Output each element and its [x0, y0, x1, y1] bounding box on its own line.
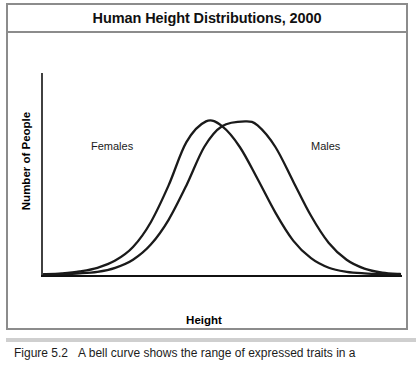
figure-frame: Human Height Distributions, 2000 Number … — [6, 3, 408, 330]
figure-title: Human Height Distributions, 2000 — [93, 10, 322, 26]
figure-caption-text: Figure 5.2A bell curve shows the range o… — [6, 346, 416, 360]
chart-plot-area: Number of People Height Females Males © … — [8, 33, 406, 328]
curve-label-males: Males — [311, 140, 340, 152]
y-axis-title: Number of People — [20, 101, 32, 221]
curve-label-females: Females — [91, 140, 133, 152]
figure-caption-label: Figure 5.2 — [14, 346, 68, 360]
figure-body: Number of People Height Females Males © … — [8, 33, 406, 328]
bell-curve-chart — [8, 33, 406, 328]
figure-caption-block: Figure 5.2A bell curve shows the range o… — [6, 338, 416, 366]
figure-caption-body: A bell curve shows the range of expresse… — [78, 346, 355, 360]
figure-title-bar: Human Height Distributions, 2000 — [8, 5, 406, 33]
x-axis-title: Height — [8, 314, 400, 326]
